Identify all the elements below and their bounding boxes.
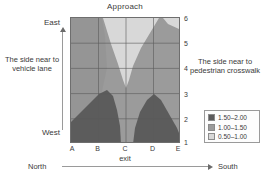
direction-label-east: East <box>14 18 60 27</box>
direction-label-north: North <box>28 162 46 171</box>
y-tick-6: 6 <box>184 15 188 22</box>
y-tick-3: 3 <box>184 90 188 97</box>
y-tick-2: 2 <box>184 115 188 122</box>
x-tick-b: B <box>95 145 100 152</box>
contour-surface <box>71 18 180 143</box>
legend-label: 1.50–2.00 <box>218 114 247 121</box>
right-arrow-icon <box>208 164 213 170</box>
legend-item: 1.50–2.00 <box>208 113 257 123</box>
y-axis: 6 5 4 3 2 1 <box>181 17 195 143</box>
legend-swatch-icon <box>208 133 215 140</box>
direction-label-south: South <box>218 162 238 171</box>
y-tick-5: 5 <box>184 40 188 47</box>
x-tick-d: D <box>150 145 155 152</box>
contour-plot-figure: Approach <box>0 0 266 176</box>
x-tick-e: E <box>176 145 181 152</box>
up-arrow-icon <box>60 27 66 32</box>
x-tick-c: C <box>122 145 127 152</box>
legend-swatch-icon <box>208 124 215 131</box>
x-tick-a: A <box>70 145 75 152</box>
legend-item: 0.50–1.00 <box>208 132 257 142</box>
legend-label: 1.00–1.50 <box>218 124 247 131</box>
legend-swatch-icon <box>208 114 215 121</box>
legend: 1.50–2.00 1.00–1.50 0.50–1.00 <box>204 110 260 143</box>
legend-label: 0.50–1.00 <box>218 133 247 140</box>
left-caption: The side near to vehicle lane <box>4 55 60 73</box>
right-caption: The side near to pedestrian crosswalk <box>186 57 264 75</box>
direction-label-west: West <box>14 128 60 137</box>
vertical-axis-line <box>62 30 63 130</box>
horizontal-axis-line <box>62 166 210 167</box>
x-axis-label: exit <box>70 154 180 163</box>
y-tick-1: 1 <box>184 139 188 146</box>
plot-area <box>70 17 180 143</box>
legend-item: 1.00–1.50 <box>208 123 257 133</box>
page-title: Approach <box>70 2 180 11</box>
